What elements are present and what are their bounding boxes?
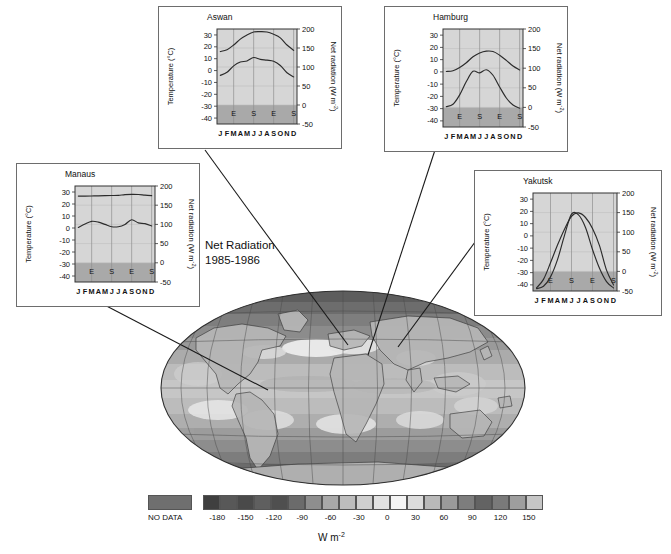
season-marker-label: S xyxy=(149,267,154,276)
month-label: F xyxy=(225,129,230,138)
season-marker-label: E xyxy=(129,267,134,276)
season-marker-label: E xyxy=(231,109,236,118)
month-label: J xyxy=(76,287,80,296)
month-label: A xyxy=(264,129,270,138)
month-label: J xyxy=(116,287,120,296)
month-label: J xyxy=(478,132,482,141)
month-label: O xyxy=(597,296,603,305)
leader-aswan xyxy=(250,212,348,345)
leader-manaus xyxy=(95,300,268,390)
season-marker-label: S xyxy=(477,112,482,121)
month-label: D xyxy=(291,129,296,138)
climate-panel-manaus: 3020100-10-20-30-40200150100500-50JFMAMJ… xyxy=(16,163,200,307)
temp-tick-label: 0 xyxy=(434,67,438,76)
chart-svg-yakutsk: 3020100-10-20-30-40200150100500-50JFMAMJ… xyxy=(475,171,663,317)
month-label: D xyxy=(149,287,154,296)
radiation-tick-label: 200 xyxy=(302,25,315,34)
radiation-tick-label: 50 xyxy=(160,239,168,248)
temp-tick-label: 20 xyxy=(204,42,212,51)
climate-panel-yakutsk: 3020100-10-20-30-40200150100500-50JFMAMJ… xyxy=(474,170,662,316)
month-label: M xyxy=(457,132,463,141)
radiation-tick-label: 200 xyxy=(160,182,173,191)
month-label: M xyxy=(231,129,237,138)
month-label: N xyxy=(604,296,609,305)
radiation-tick-label: 0 xyxy=(302,101,306,110)
season-marker-label: E xyxy=(497,112,502,121)
month-label: F xyxy=(451,132,456,141)
y-axis-title-temperature: Temperature (°C) xyxy=(166,47,175,105)
radiation-tick-label: 100 xyxy=(622,228,635,237)
temp-tick-label: 0 xyxy=(524,231,528,240)
temp-tick-label: -30 xyxy=(517,268,528,277)
month-label: M xyxy=(470,132,476,141)
temp-tick-label: 20 xyxy=(62,200,70,209)
month-label: S xyxy=(271,129,276,138)
radiation-tick-label: 150 xyxy=(622,208,635,217)
legend-tick-150: 150 xyxy=(519,513,539,522)
climate-panel-aswan: 3020100-10-20-30-40200150100500-50JFMAMJ… xyxy=(158,6,342,149)
units-exponent: -2 xyxy=(339,531,345,538)
swatch-10 xyxy=(373,495,390,510)
month-label: M xyxy=(102,287,108,296)
month-label: A xyxy=(464,132,470,141)
month-label: J xyxy=(569,296,573,305)
temp-tick-label: -30 xyxy=(201,102,212,111)
temp-tick-label: -10 xyxy=(59,236,70,245)
temp-tick-label: -40 xyxy=(517,280,528,289)
radiation-tick-label: -50 xyxy=(160,278,171,287)
legend-label-no-data: NO DATA xyxy=(148,513,182,522)
month-label: J xyxy=(258,129,262,138)
swatch-13 xyxy=(424,495,441,510)
y-axis-title-radiation: Net radiation (W m-2) xyxy=(329,42,339,112)
leader-hamburg xyxy=(368,150,435,355)
temp-tick-label: -10 xyxy=(427,80,438,89)
y-axis-title-temperature: Temperature (°C) xyxy=(24,205,33,263)
month-label: F xyxy=(83,287,88,296)
month-label: S xyxy=(497,132,502,141)
swatch-4 xyxy=(271,495,288,510)
swatch-7 xyxy=(322,495,339,510)
month-label: A xyxy=(490,132,496,141)
temp-tick-label: -20 xyxy=(201,90,212,99)
month-label: M xyxy=(89,287,95,296)
swatch-6 xyxy=(305,495,322,510)
panel-title-manaus: Manaus xyxy=(65,169,95,179)
chart-svg-aswan: 3020100-10-20-30-40200150100500-50JFMAMJ… xyxy=(159,7,343,150)
leader-yakutsk xyxy=(398,238,478,347)
panel-title-aswan: Aswan xyxy=(207,12,233,22)
month-label: A xyxy=(122,287,128,296)
temp-tick-label: -10 xyxy=(201,78,212,87)
month-label: N xyxy=(142,287,147,296)
swatch-14 xyxy=(441,495,458,510)
temp-tick-label: 10 xyxy=(204,54,212,63)
month-label: J xyxy=(444,132,448,141)
temp-tick-label: 30 xyxy=(62,188,70,197)
legend-tick-120: 120 xyxy=(491,513,511,522)
temp-tick-label: 0 xyxy=(66,224,70,233)
swatch-18 xyxy=(509,495,526,510)
leader-aswan-upper xyxy=(205,150,250,212)
temp-tick-label: -10 xyxy=(517,244,528,253)
temp-tick-label: -40 xyxy=(59,272,70,281)
season-marker-label: E xyxy=(271,109,276,118)
month-label: J xyxy=(218,129,222,138)
radiation-tick-label: 0 xyxy=(622,267,626,276)
panel-title-yakutsk: Yakutsk xyxy=(523,176,553,186)
month-label: S xyxy=(590,296,595,305)
units-text: W m xyxy=(318,532,339,543)
climate-panel-hamburg: 3020100-10-20-30-40200150100500-50JFMAMJ… xyxy=(384,6,568,152)
month-label: O xyxy=(503,132,509,141)
radiation-tick-label: 100 xyxy=(302,63,315,72)
month-label: N xyxy=(284,129,289,138)
radiation-tick-label: 200 xyxy=(622,189,635,198)
net-radiation-figure: Net Radiation 1985-1986 3020100-10-20-30… xyxy=(0,0,671,554)
month-label: N xyxy=(510,132,515,141)
panel-title-hamburg: Hamburg xyxy=(433,12,468,22)
month-label: J xyxy=(534,296,538,305)
radiation-tick-label: 0 xyxy=(528,103,532,112)
month-label: F xyxy=(541,296,546,305)
y-axis-title-radiation: Net radiation (W m-2) xyxy=(187,199,197,269)
temp-tick-label: 20 xyxy=(430,43,438,52)
legend-tick--90: -90 xyxy=(292,513,312,522)
swatch-5 xyxy=(288,495,305,510)
